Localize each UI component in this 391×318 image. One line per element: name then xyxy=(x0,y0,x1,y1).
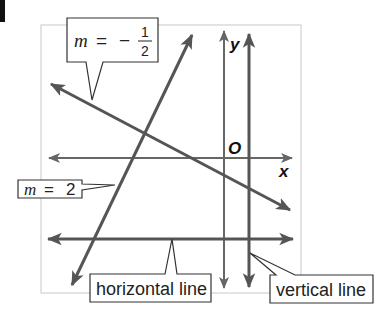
origin-label: O xyxy=(228,139,241,158)
callout-two-value: 2 xyxy=(66,180,75,199)
callout-vertical-label: vertical line xyxy=(276,280,366,300)
callout-neg-half-var: m xyxy=(74,30,88,51)
callout-neg-half-denominator: 2 xyxy=(141,43,149,59)
x-axis-label: x xyxy=(278,162,290,181)
callout-vertical-line: vertical line xyxy=(250,253,373,303)
callout-horizontal-line: horizontal line xyxy=(90,239,211,302)
callout-two-eq: = xyxy=(44,180,54,199)
callout-neg-half-sign: − xyxy=(119,30,130,51)
callout-neg-half-numerator: 1 xyxy=(141,24,149,40)
callout-slope-negative-half: m = − 1 2 xyxy=(67,18,158,100)
line-slope-negative-half xyxy=(51,84,290,210)
callout-horizontal-label: horizontal line xyxy=(96,279,207,299)
callout-slope-two: m = 2 xyxy=(18,180,115,199)
corner-mark xyxy=(0,0,5,22)
callout-two-var: m xyxy=(24,180,36,199)
callout-neg-half-eq: = xyxy=(96,30,107,51)
y-axis-label: y xyxy=(229,35,241,54)
slope-diagram: y O x m = − 1 2 m = 2 horizontal line ve… xyxy=(0,0,391,318)
